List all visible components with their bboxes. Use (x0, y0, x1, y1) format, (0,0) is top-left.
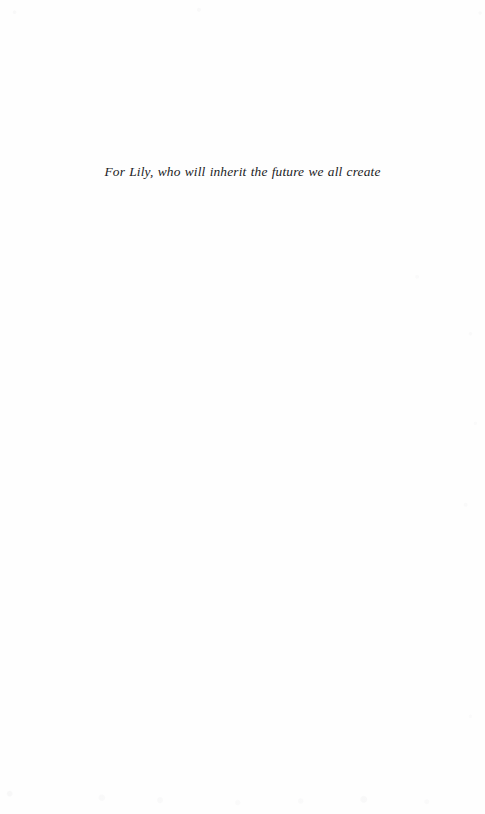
dedication-block: For Lily, who will inherit the future we… (0, 162, 485, 181)
dedication-text: For Lily, who will inherit the future we… (104, 163, 380, 181)
paper-grain-texture (0, 0, 485, 814)
dedication-page: For Lily, who will inherit the future we… (0, 0, 485, 814)
